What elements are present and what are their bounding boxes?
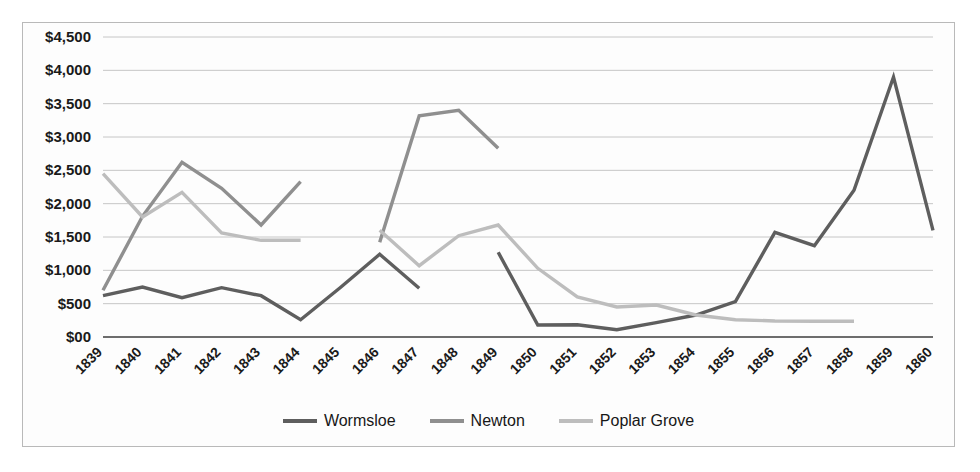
x-axis-tick-label: 1860: [902, 344, 935, 377]
x-axis-tick-label: 1856: [744, 344, 777, 377]
x-axis-tick-label: 1845: [309, 344, 342, 377]
y-axis-tick-label: $3,500: [45, 95, 91, 112]
x-axis-tick-label: 1849: [467, 344, 500, 377]
x-axis-tick-label: 1851: [546, 344, 579, 377]
x-axis-tick-label: 1843: [230, 344, 263, 377]
x-axis-tick-label: 1847: [388, 344, 421, 377]
legend-label: Newton: [471, 412, 525, 430]
y-axis-tick-label: $1,000: [45, 261, 91, 278]
x-axis-tick-label: 1855: [704, 344, 737, 377]
series-line-newton: [380, 110, 499, 242]
series-line-poplar-grove: [103, 174, 301, 241]
x-axis-tick-labels: 1839184018411842184318441845184618471848…: [72, 344, 935, 377]
legend-item-wormsloe[interactable]: Wormsloe: [283, 412, 396, 430]
y-axis-tick-label: $3,000: [45, 128, 91, 145]
x-axis-tick-label: 1841: [151, 344, 184, 377]
legend-label: Wormsloe: [324, 412, 396, 430]
y-axis-tick-labels: $4,500$4,000$3,500$3,000$2,500$2,000$1,5…: [45, 28, 91, 345]
y-axis-tick-label: $1,500: [45, 228, 91, 245]
series-line-wormsloe: [103, 254, 419, 319]
y-axis-tick-label: $4,500: [45, 28, 91, 45]
y-axis-tick-label: $500: [58, 295, 91, 312]
y-axis-tick-label: $2,500: [45, 161, 91, 178]
x-axis-tick-label: 1846: [348, 344, 381, 377]
x-axis-tick-label: 1857: [783, 344, 816, 377]
y-axis-tick-label: $4,000: [45, 61, 91, 78]
legend-swatch-icon: [430, 419, 464, 423]
x-axis-tick-label: 1852: [586, 344, 619, 377]
chart-frame: $4,500$4,000$3,500$3,000$2,500$2,000$1,5…: [22, 22, 955, 447]
legend-swatch-icon: [559, 419, 593, 423]
y-axis-tick-label: $2,000: [45, 195, 91, 212]
x-axis-tick-label: 1848: [427, 344, 460, 377]
x-axis-tick-label: 1842: [190, 344, 223, 377]
x-axis-tick-label: 1839: [72, 344, 105, 377]
y-axis-tick-label: $00: [66, 328, 91, 345]
x-axis-tick-label: 1840: [111, 344, 144, 377]
legend-swatch-icon: [283, 419, 317, 423]
series-line-poplar-grove: [380, 225, 854, 321]
series-line-newton: [103, 162, 301, 290]
x-axis-tick-label: 1850: [507, 344, 540, 377]
gridlines-group: [103, 37, 933, 304]
x-axis-tick-label: 1853: [625, 344, 658, 377]
x-axis-tick-label: 1854: [665, 344, 698, 377]
chart-legend: WormsloeNewtonPoplar Grove: [23, 412, 954, 430]
legend-item-newton[interactable]: Newton: [430, 412, 525, 430]
line-chart-plot: $4,500$4,000$3,500$3,000$2,500$2,000$1,5…: [23, 23, 954, 446]
x-axis-tick-label: 1844: [269, 344, 302, 377]
x-axis-tick-label: 1859: [862, 344, 895, 377]
legend-item-poplar-grove[interactable]: Poplar Grove: [559, 412, 694, 430]
legend-label: Poplar Grove: [600, 412, 694, 430]
x-axis-tick-label: 1858: [823, 344, 856, 377]
